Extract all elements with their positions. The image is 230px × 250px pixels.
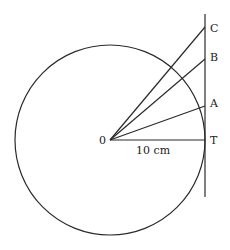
label-C: C: [210, 22, 218, 35]
label-B: B: [210, 51, 218, 64]
label-center-O: 0: [99, 134, 106, 147]
label-T: T: [210, 134, 218, 147]
radius-length-label: 10 cm: [136, 144, 171, 157]
line-OB: [110, 59, 205, 140]
label-A: A: [209, 97, 219, 110]
circle-tangent-diagram: C B A T 0 10 cm: [0, 0, 230, 250]
